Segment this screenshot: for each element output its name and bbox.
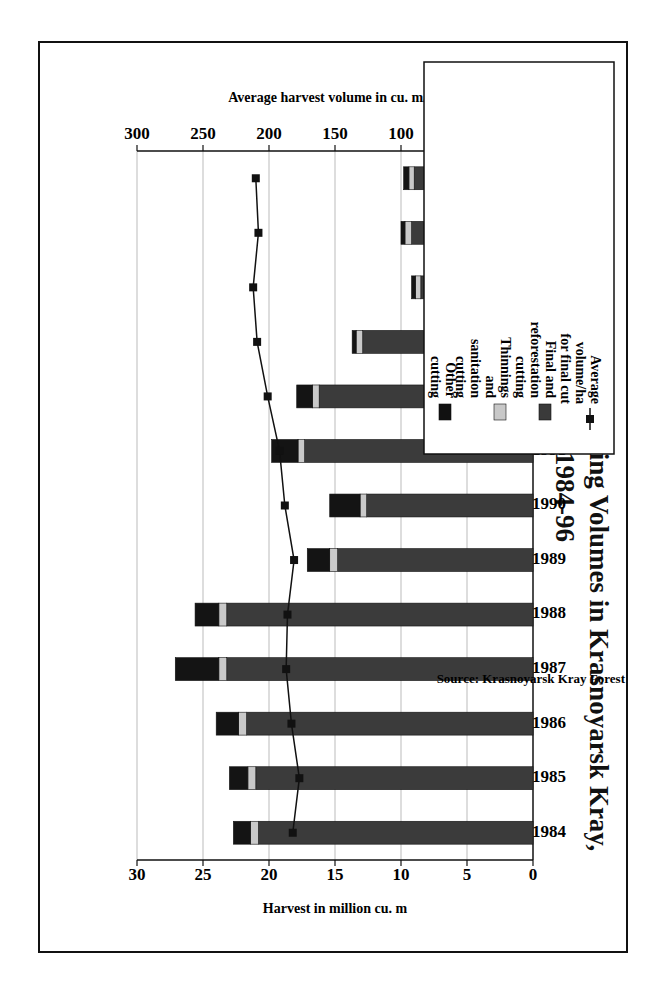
bar-thinning-cutting [356, 330, 363, 353]
y-tick-label: 15 [327, 865, 344, 884]
bar-other-cutting [229, 767, 247, 790]
avg-volume-marker [249, 283, 257, 291]
legend-thinnings-label: and [483, 375, 498, 398]
bar-thinning-cutting [239, 712, 247, 735]
bar-thinning-cutting [248, 767, 256, 790]
legend-thinnings-label: sanitation [468, 339, 483, 398]
avg-volume-marker [283, 611, 291, 619]
legend-final-label: reforestation [528, 322, 543, 399]
bar-thinning-cutting [330, 549, 338, 572]
category-label: 1984 [532, 822, 567, 841]
avg-volume-marker [290, 556, 298, 564]
bar-thinning-cutting [360, 494, 367, 517]
avg-volume-marker [289, 829, 297, 837]
legend-thinnings-label: Thinnings [498, 337, 513, 398]
bar-other-cutting [352, 330, 356, 353]
legend-average-label: Average [588, 355, 603, 404]
category-label: 1985 [532, 767, 566, 786]
y2-axis-title: Average harvest volume in cu. m/ha [228, 90, 442, 105]
source-note: Source: Krasnoyarsk Kray Forest Committe… [437, 671, 628, 686]
bar-thinning-cutting [416, 276, 421, 299]
legend-final-label: cutting [513, 356, 528, 398]
avg-volume-marker [295, 774, 303, 782]
category-label: 1989 [532, 549, 566, 568]
legend-final-swatch [539, 404, 551, 420]
bar-final-cutting [338, 549, 533, 572]
avg-volume-marker [264, 392, 272, 400]
y-tick-label: 0 [529, 865, 538, 884]
y-axis-title: Harvest in million cu. m [263, 901, 408, 916]
bar-thinning-cutting [405, 221, 412, 244]
bar-other-cutting [330, 494, 360, 517]
y-tick-label: 10 [393, 865, 410, 884]
avg-volume-marker [254, 229, 262, 237]
legend-other-swatch [439, 404, 451, 420]
avg-volume-marker [276, 447, 284, 455]
bar-thinning-cutting [298, 440, 305, 463]
bar-other-cutting [195, 603, 219, 626]
category-label: 1990 [532, 494, 566, 513]
y-tick-label: 25 [195, 865, 212, 884]
legend-thinnings-label: cutting [453, 356, 468, 398]
y2-tick-label: 100 [388, 124, 414, 143]
bar-other-cutting [401, 221, 405, 244]
category-label: 1988 [532, 603, 566, 622]
legend-marker-icon [586, 415, 594, 423]
y-tick-label: 5 [463, 865, 472, 884]
bar-other-cutting [233, 821, 250, 844]
y2-tick-label: 250 [190, 124, 216, 143]
y2-tick-label: 200 [256, 124, 282, 143]
chart-svg: 051015202530050100150200250300Harvest in… [38, 41, 628, 953]
bar-other-cutting [175, 658, 219, 681]
avg-volume-marker [287, 720, 295, 728]
y2-tick-label: 150 [322, 124, 348, 143]
bar-other-cutting [412, 276, 416, 299]
legend-average-label: for final cut [558, 333, 573, 404]
bar-final-cutting [227, 603, 533, 626]
bar-thinning-cutting [313, 385, 320, 408]
y2-tick-label: 300 [124, 124, 150, 143]
bar-thinning-cutting [219, 658, 227, 681]
legend-thinnings-swatch [494, 404, 506, 420]
bar-other-cutting [216, 712, 238, 735]
bar-other-cutting [404, 167, 409, 190]
rotated-figure: Figure A.7: Actual Harvesting Volumes in… [38, 41, 628, 953]
avg-volume-marker [282, 665, 290, 673]
legend-average-label: volume/ha [573, 342, 588, 404]
y-tick-label: 20 [261, 865, 278, 884]
bar-other-cutting [297, 385, 313, 408]
y-tick-label: 30 [129, 865, 146, 884]
bar-thinning-cutting [251, 821, 259, 844]
legend-final-label: Final and [543, 341, 558, 398]
category-label: 1986 [532, 713, 566, 732]
avg-volume-marker [281, 502, 289, 510]
bar-thinning-cutting [219, 603, 227, 626]
avg-volume-marker [253, 338, 261, 346]
bar-final-cutting [367, 494, 533, 517]
avg-volume-marker [252, 174, 260, 182]
bar-thinning-cutting [409, 167, 414, 190]
bar-final-cutting [258, 821, 533, 844]
legend-other-label: cutting [428, 356, 443, 398]
bar-other-cutting [307, 549, 329, 572]
